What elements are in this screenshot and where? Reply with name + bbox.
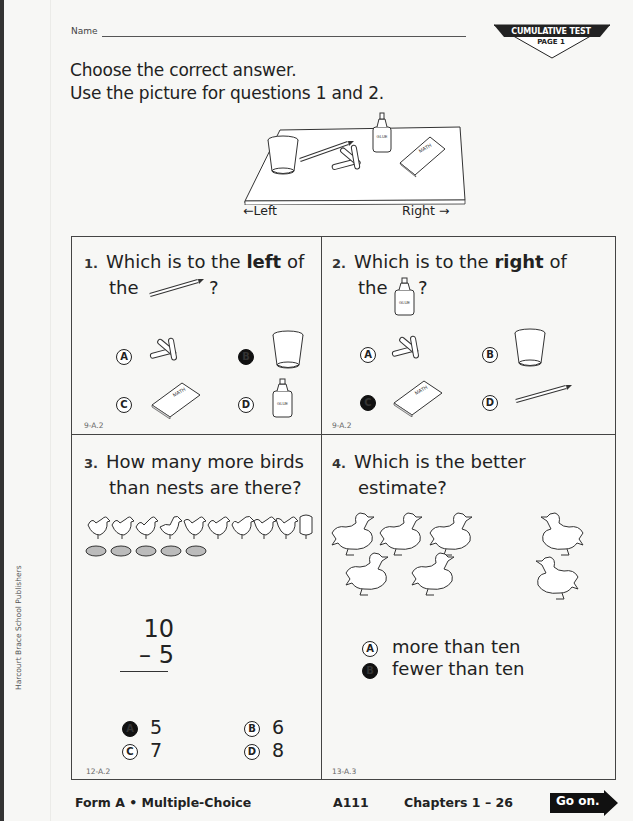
- choice-c-bubble[interactable]: C: [122, 744, 138, 760]
- question-text-part: Which is to the: [354, 251, 494, 272]
- problem-answer-line: [120, 671, 168, 672]
- choice-a-bubble[interactable]: A: [362, 641, 378, 657]
- question-grid: 1.Which is to the left of the ? A B C MA…: [71, 236, 616, 780]
- question-text-part: Which is the better: [354, 451, 526, 472]
- left-direction-label: ←Left: [243, 203, 277, 218]
- question-3-line1: 3.How many more birds: [84, 449, 304, 477]
- question-1: 1.Which is to the left of the ? A B C MA…: [72, 237, 321, 434]
- paper-clips-icon: [148, 337, 188, 367]
- choice-d-bubble[interactable]: D: [238, 397, 254, 413]
- choice-a-bubble-selected[interactable]: A: [122, 721, 138, 737]
- question-2: 2.Which is to the right of the GLUE ? A …: [322, 237, 616, 434]
- question-4-line1: 4.Which is the better: [332, 449, 526, 477]
- name-label: Name: [71, 26, 98, 36]
- choice-c-value: 7: [150, 739, 162, 761]
- footer-page-code: A111: [333, 795, 369, 810]
- question-text-part: Which is to the: [106, 251, 246, 272]
- page-binding-edge: [0, 0, 4, 821]
- choice-b-bubble-selected[interactable]: B: [362, 663, 378, 679]
- desk-illustration: GLUE MATH: [240, 105, 470, 205]
- question-number: 3.: [84, 456, 98, 471]
- question-mark: ?: [418, 275, 428, 301]
- question-emphasis: left: [246, 251, 281, 272]
- choice-b-bubble-selected[interactable]: B: [238, 349, 254, 365]
- question-code: 9-A.2: [332, 421, 351, 430]
- cup-icon: [270, 329, 306, 371]
- choice-c-bubble-selected[interactable]: C: [360, 395, 376, 411]
- choice-d-bubble[interactable]: D: [244, 744, 260, 760]
- go-on-label: Go on.: [556, 794, 600, 808]
- duck-icon: [332, 513, 374, 555]
- problem-bottom-number: – 5: [118, 641, 174, 669]
- question-3-line2: than nests are there?: [109, 475, 302, 501]
- paper-clips-icon: [390, 335, 430, 365]
- question-text-part: the: [109, 277, 139, 298]
- question-mark: ?: [209, 275, 219, 301]
- choice-a-bubble[interactable]: A: [360, 347, 376, 363]
- question-1-text: 1.Which is to the left of: [84, 249, 304, 277]
- cup-icon: [512, 327, 548, 369]
- question-3: 3.How many more birds than nests are the…: [72, 435, 321, 780]
- choice-d-value: 8: [272, 739, 284, 761]
- duck-icon: [430, 513, 472, 555]
- ducks-picture: [324, 507, 614, 607]
- choice-a-value: more than ten: [392, 636, 521, 657]
- choice-b-value: fewer than ten: [392, 658, 525, 679]
- svg-text:GLUE: GLUE: [399, 300, 410, 305]
- question-code: 12-A.2: [86, 767, 110, 776]
- instruction-line-2: Use the picture for questions 1 and 2.: [70, 83, 384, 103]
- question-4-line2: estimate?: [358, 475, 447, 501]
- svg-text:GLUE: GLUE: [377, 134, 388, 139]
- desk-picture: GLUE MATH ←Left Right →: [240, 105, 470, 225]
- footer-form-label: Form A • Multiple-Choice: [75, 795, 251, 810]
- question-number: 1.: [84, 256, 98, 271]
- question-number: 2.: [332, 256, 346, 271]
- duck-icon: [380, 513, 422, 555]
- duck-icon: [412, 553, 454, 595]
- glue-bottle-icon: GLUE: [270, 377, 296, 419]
- name-input-line[interactable]: [102, 36, 466, 37]
- choice-b-bubble[interactable]: B: [244, 721, 260, 737]
- choice-d-bubble[interactable]: D: [482, 395, 498, 411]
- choice-b-value: 6: [272, 716, 284, 738]
- question-text-part: of: [544, 251, 567, 272]
- nest-icons: [86, 546, 206, 556]
- duck-icon: [541, 513, 583, 555]
- duck-icon: [536, 557, 578, 599]
- pencil-icon: [148, 277, 204, 299]
- math-book-icon: MATH: [390, 377, 446, 417]
- question-emphasis: right: [494, 251, 543, 272]
- cup-icon: [268, 136, 298, 174]
- svg-text:GLUE: GLUE: [277, 401, 288, 406]
- pencil-icon: [514, 383, 574, 405]
- question-text-part: How many more birds: [106, 451, 304, 472]
- go-on-arrow: Go on.: [550, 790, 620, 816]
- glue-bottle-icon: GLUE: [373, 113, 391, 152]
- question-4: 4.Which is the better estimate?: [322, 435, 616, 780]
- question-1-line2: the: [109, 275, 139, 301]
- duck-icon: [346, 553, 388, 595]
- question-text-part: of: [281, 251, 304, 272]
- question-2-text: 2.Which is to the right of: [332, 249, 567, 277]
- instruction-line-1: Choose the correct answer.: [70, 60, 296, 80]
- math-book-icon: MATH: [148, 379, 204, 419]
- bird-icons: [88, 515, 312, 539]
- publisher-credit: Harcourt Brace School Publishers: [14, 565, 23, 690]
- badge-page: PAGE 1: [492, 38, 610, 46]
- choice-a-bubble[interactable]: A: [116, 349, 132, 365]
- problem-top-number: 10: [134, 615, 174, 643]
- question-code: 13-A.3: [332, 767, 356, 776]
- birds-and-nests-picture: [84, 513, 324, 563]
- right-direction-label: Right →: [402, 203, 449, 218]
- choice-a-value: 5: [150, 716, 162, 738]
- badge-title: CUMULATIVE TEST: [492, 27, 610, 36]
- choice-b-bubble[interactable]: B: [482, 347, 498, 363]
- question-text-part: the: [358, 275, 388, 301]
- choice-c-bubble[interactable]: C: [116, 397, 132, 413]
- footer-chapters: Chapters 1 – 26: [404, 795, 513, 810]
- cumulative-test-badge: CUMULATIVE TEST PAGE 1: [492, 22, 622, 62]
- page-margin-line: [50, 0, 51, 821]
- question-code: 9-A.2: [84, 421, 103, 430]
- glue-bottle-icon: GLUE: [393, 277, 417, 317]
- question-number: 4.: [332, 456, 346, 471]
